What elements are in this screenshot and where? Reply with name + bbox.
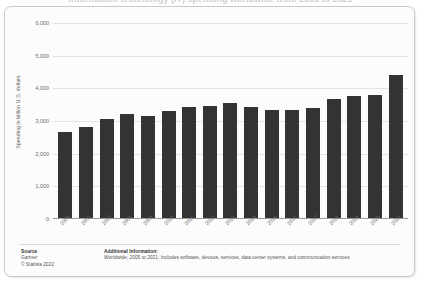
bar-series [53, 23, 408, 218]
chart-footer: Source Gartner© Statista 2022 Additional… [5, 247, 416, 277]
source-block: Source Gartner© Statista 2022 [21, 249, 54, 268]
bar-slot [179, 23, 200, 218]
additional-information-block: Additional Information: Worldwide; 2005 … [104, 249, 350, 262]
y-tick-label: 4,000 [36, 85, 50, 91]
bar[interactable] [347, 96, 361, 218]
bar-slot [344, 23, 365, 218]
bar[interactable] [203, 106, 217, 218]
bar[interactable] [244, 107, 258, 218]
x-label-slot: 2019 [344, 220, 365, 250]
bar[interactable] [162, 111, 176, 218]
bar-slot [220, 23, 241, 218]
x-label-slot: 2021 [385, 220, 406, 250]
y-tick-label: 6,000 [36, 20, 50, 26]
bar-slot [199, 23, 220, 218]
bar-slot [158, 23, 179, 218]
bar-slot [96, 23, 117, 218]
bar-slot [303, 23, 324, 218]
additional-information-text: Worldwide; 2005 to 2021; Includes softwa… [104, 255, 350, 261]
x-label-slot: 2015 [261, 220, 282, 250]
bar-slot [323, 23, 344, 218]
bar-slot [55, 23, 76, 218]
bar-slot [282, 23, 303, 218]
bar-slot [241, 23, 262, 218]
bar-slot [117, 23, 138, 218]
bar-slot [138, 23, 159, 218]
chart-plot-wrapper: Spending in billion U.S. dollars 01,0002… [5, 7, 416, 235]
y-tick-label: 0 [46, 216, 49, 222]
bar-slot [385, 23, 406, 218]
bar[interactable] [58, 132, 72, 218]
bar[interactable] [306, 108, 320, 219]
bar[interactable] [120, 114, 134, 218]
bar-slot [76, 23, 97, 218]
x-label-slot: 2009 [138, 220, 159, 250]
bar[interactable] [368, 95, 382, 219]
y-tick-label: 3,000 [36, 118, 50, 124]
bar[interactable] [182, 107, 196, 218]
x-label-slot: 2014 [241, 220, 262, 250]
x-label-slot: 2018 [323, 220, 344, 250]
bar[interactable] [100, 119, 114, 218]
y-tick-label: 1,000 [36, 183, 50, 189]
chart-plot-area: 01,0002,0003,0004,0005,0006,000 [53, 23, 408, 219]
x-label-slot: 2005 [55, 220, 76, 250]
x-axis-labels: 2005200620072008200920102011201220132014… [53, 220, 408, 250]
x-label-slot: 2012 [199, 220, 220, 250]
footer-divider [19, 244, 400, 245]
bar[interactable] [265, 110, 279, 218]
x-label-slot: 2006 [76, 220, 97, 250]
bar[interactable] [327, 99, 341, 218]
x-label-slot: 2017 [303, 220, 324, 250]
x-label-slot: 2016 [282, 220, 303, 250]
bar[interactable] [79, 127, 93, 218]
bar[interactable] [285, 110, 299, 218]
bar[interactable] [223, 103, 237, 218]
x-label-slot: 2010 [158, 220, 179, 250]
y-tick-label: 5,000 [36, 53, 50, 59]
x-label-slot: 2007 [96, 220, 117, 250]
y-axis-title-text: Spending in billion U.S. dollars [15, 75, 21, 149]
x-label-slot: 2011 [179, 220, 200, 250]
x-label-slot: 2020 [365, 220, 386, 250]
y-axis-title: Spending in billion U.S. dollars [11, 7, 25, 217]
source-lines: Gartner© Statista 2022 [21, 255, 54, 268]
statista-chart-card: Spending in billion U.S. dollars 01,0002… [4, 6, 415, 277]
bar-slot [261, 23, 282, 218]
x-label-slot: 2013 [220, 220, 241, 250]
x-label-slot: 2008 [117, 220, 138, 250]
source-line: © Statista 2022 [21, 262, 54, 268]
bar[interactable] [389, 75, 403, 218]
bar-slot [365, 23, 386, 218]
bar[interactable] [141, 116, 155, 218]
y-tick-label: 2,000 [36, 151, 50, 157]
